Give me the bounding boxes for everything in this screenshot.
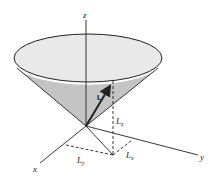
vector-label: L xyxy=(97,93,102,102)
cone-diagram: z x y L Lz Ly Lx xyxy=(0,0,213,179)
ly-label: Ly xyxy=(76,155,85,166)
x-axis-label: x xyxy=(32,164,37,174)
z-axis-label: z xyxy=(82,10,87,20)
cone-top-ellipse xyxy=(14,34,162,82)
xy-projection-line xyxy=(86,126,113,155)
lz-label: Lz xyxy=(115,116,124,127)
diagram-canvas: z x y L Lz Ly Lx xyxy=(0,0,213,179)
lx-label: Lx xyxy=(125,150,134,161)
y-axis xyxy=(86,126,198,155)
y-axis-label: y xyxy=(199,152,204,162)
ly-dashed-line xyxy=(66,145,113,155)
